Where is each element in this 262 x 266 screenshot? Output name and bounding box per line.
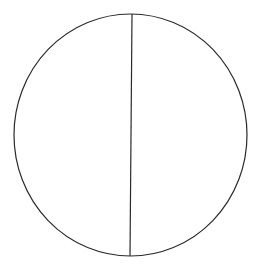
diagram-canvas <box>0 0 262 266</box>
divided-circle-diagram <box>0 0 262 266</box>
vertical-divider-line <box>130 14 132 256</box>
